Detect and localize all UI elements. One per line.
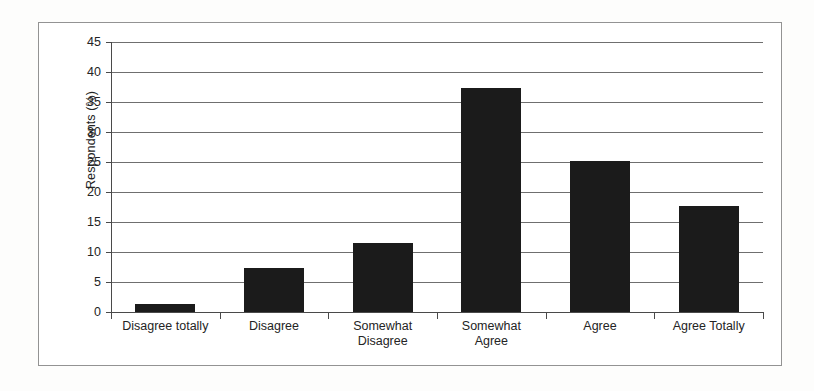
bar[interactable]	[353, 243, 413, 312]
gridline	[111, 72, 763, 73]
y-tick-mark	[106, 222, 112, 223]
x-axis-category-label-line: Somewhat	[353, 319, 412, 333]
y-tick-label: 45	[87, 35, 101, 49]
y-tick-mark	[106, 282, 112, 283]
x-axis-category-labels: Disagree totallyDisagreeSomewhatDisagree…	[111, 319, 763, 363]
y-tick-label: 20	[87, 185, 101, 199]
y-tick-label: 25	[87, 155, 101, 169]
x-axis-category-label: Disagree	[220, 319, 329, 334]
y-tick-mark	[106, 192, 112, 193]
gridline	[111, 282, 763, 283]
x-axis-category-label: Agree	[546, 319, 655, 334]
y-tick-mark	[106, 72, 112, 73]
y-tick-mark	[106, 162, 112, 163]
y-tick-mark	[106, 102, 112, 103]
bar[interactable]	[244, 268, 304, 312]
figure-canvas: Respondents (%) 454035302520151050 Disag…	[0, 0, 814, 391]
x-axis-category-label-line: Agree	[437, 334, 546, 349]
x-tick-mark	[654, 312, 655, 319]
x-axis-category-label: Agree Totally	[654, 319, 763, 334]
x-axis-category-label: SomewhatDisagree	[328, 319, 437, 349]
gridline	[111, 252, 763, 253]
y-tick-label: 40	[87, 65, 101, 79]
gridline	[111, 42, 763, 43]
y-tick-label: 30	[87, 125, 101, 139]
gridline	[111, 132, 763, 133]
x-tick-mark	[328, 312, 329, 319]
y-tick-mark	[106, 252, 112, 253]
x-axis-category-label: SomewhatAgree	[437, 319, 546, 349]
x-tick-mark	[763, 312, 764, 319]
y-tick-mark	[106, 132, 112, 133]
x-axis-category-label-line: Agree Totally	[673, 319, 745, 333]
bar[interactable]	[679, 206, 739, 312]
bar[interactable]	[135, 304, 195, 312]
x-axis-category-label-line: Disagree	[328, 334, 437, 349]
value-axis-line	[111, 42, 112, 312]
bar[interactable]	[461, 88, 521, 312]
x-axis-category-label: Disagree totally	[111, 319, 220, 334]
plot-area: 454035302520151050	[111, 42, 763, 312]
y-tick-label: 10	[87, 245, 101, 259]
chart-frame: Respondents (%) 454035302520151050 Disag…	[38, 22, 782, 366]
gridline	[111, 192, 763, 193]
x-tick-mark	[220, 312, 221, 319]
x-tick-mark	[546, 312, 547, 319]
x-axis-category-label-line: Agree	[583, 319, 616, 333]
y-tick-label: 0	[94, 305, 101, 319]
x-tick-mark	[111, 312, 112, 319]
y-tick-label: 15	[87, 215, 101, 229]
x-axis-category-label-line: Somewhat	[462, 319, 521, 333]
x-axis-category-label-line: Disagree totally	[122, 319, 208, 333]
gridline	[111, 162, 763, 163]
bar[interactable]	[570, 161, 630, 312]
gridline	[111, 102, 763, 103]
x-tick-mark	[437, 312, 438, 319]
y-tick-mark	[106, 42, 112, 43]
x-axis-category-label-line: Disagree	[249, 319, 299, 333]
y-tick-label: 5	[94, 275, 101, 289]
gridline	[111, 222, 763, 223]
y-tick-label: 35	[87, 95, 101, 109]
